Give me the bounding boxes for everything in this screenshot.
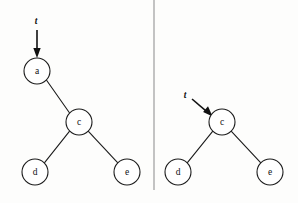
pointer-label-t-right: t — [184, 90, 187, 100]
edge-c-to-d — [45, 131, 70, 162]
node-c-right-label: c — [220, 117, 224, 127]
pointer-t-right: t — [184, 90, 213, 116]
node-e-right-label: e — [268, 167, 272, 177]
pointer-t-left: t — [33, 16, 40, 58]
node-d-right: d — [165, 159, 191, 185]
pointer-label-t-left: t — [35, 16, 38, 26]
node-c-left-label: c — [77, 117, 81, 127]
node-c-left: c — [66, 109, 92, 135]
node-d-left: d — [22, 159, 48, 185]
edge-a-to-c — [46, 80, 69, 113]
node-e-left: e — [114, 159, 140, 185]
node-d-left-label: d — [33, 167, 38, 177]
node-e-right: e — [257, 159, 283, 185]
edge-c-to-e — [88, 131, 117, 162]
left-panel-before-deletion: t a c d e — [22, 16, 140, 185]
node-c-right: c — [209, 109, 235, 135]
node-d-right-label: d — [176, 167, 181, 177]
right-panel-after-deletion: t c d e — [165, 90, 283, 185]
edge-c-to-e-right — [231, 131, 260, 162]
node-a: a — [24, 58, 50, 84]
node-e-left-label: e — [125, 167, 129, 177]
pointer-arrowhead-left — [33, 48, 40, 58]
edge-c-to-d-right — [187, 131, 212, 162]
tree-diagram-figure: t a c d e t — [0, 0, 298, 203]
